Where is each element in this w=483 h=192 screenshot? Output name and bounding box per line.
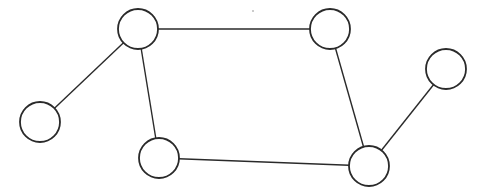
artifact-layer: [252, 10, 254, 12]
edge-n2-n6: [330, 29, 369, 166]
node-n4: [20, 102, 60, 142]
graph-diagram: [0, 0, 483, 192]
edge-layer: [40, 29, 446, 166]
node-layer: [20, 9, 466, 186]
node-n2: [310, 9, 350, 49]
node-n1: [118, 9, 158, 49]
node-n3: [426, 49, 466, 89]
node-n6: [349, 146, 389, 186]
node-n5: [139, 138, 179, 178]
stray-dot: [252, 10, 254, 12]
edge-n5-n6: [159, 158, 369, 166]
